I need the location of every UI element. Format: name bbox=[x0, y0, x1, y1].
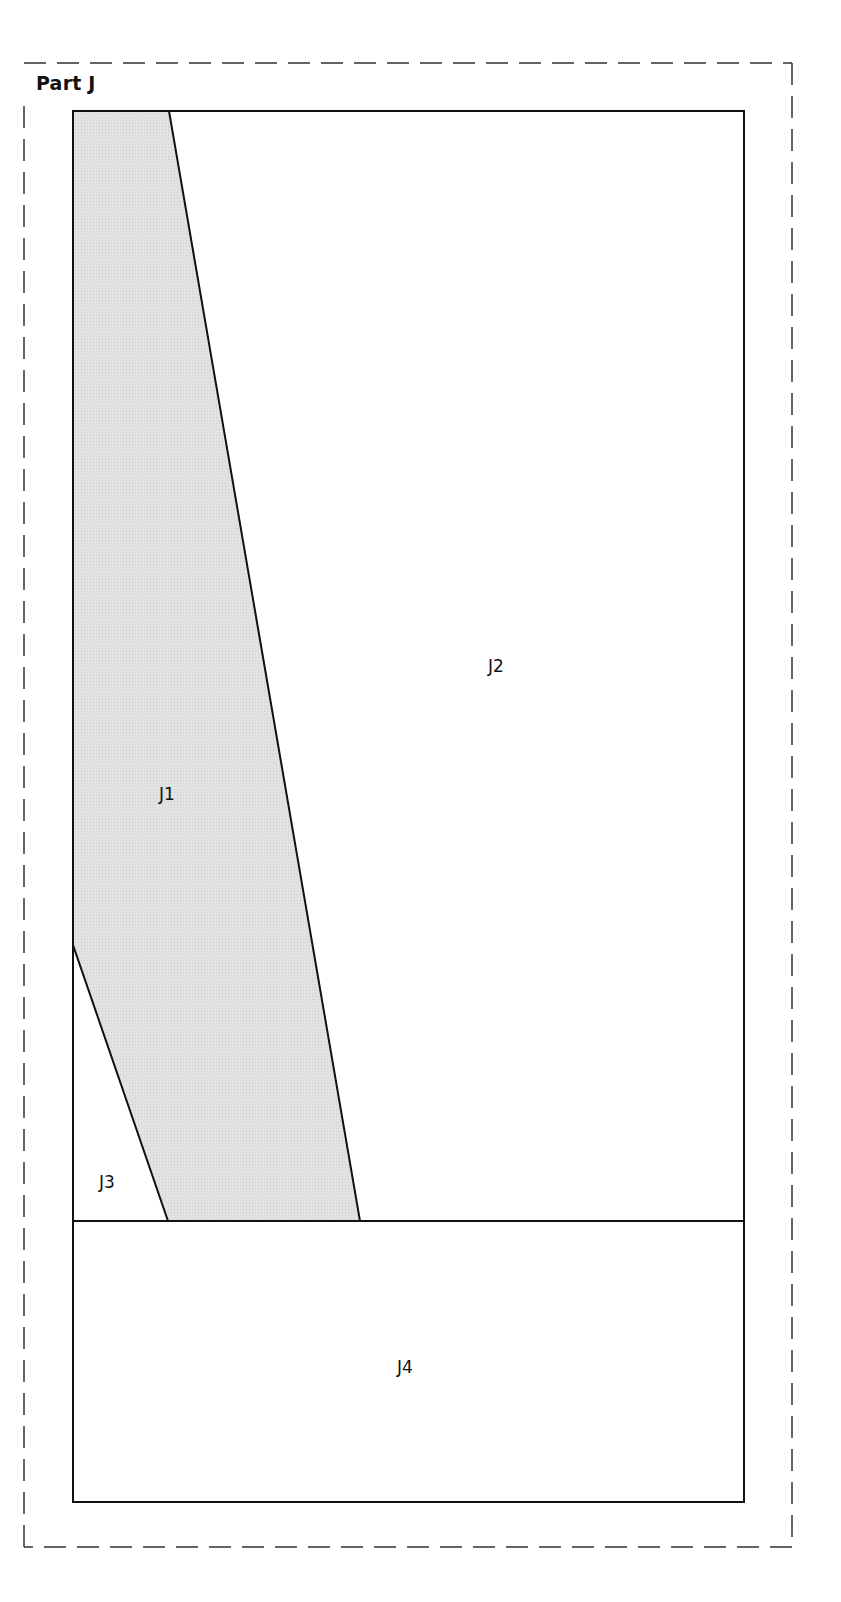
piece-j1 bbox=[73, 111, 360, 1221]
piece-label-j2: J2 bbox=[487, 656, 504, 676]
piece-label-j1: J1 bbox=[158, 784, 175, 804]
piece-label-j3: J3 bbox=[98, 1172, 115, 1192]
piece-label-j4: J4 bbox=[396, 1357, 413, 1377]
pattern-diagram: J1 J2 J3 J4 bbox=[0, 0, 841, 1602]
